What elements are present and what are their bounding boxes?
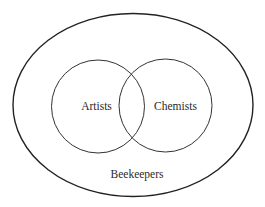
venn-diagram: Artists Chemists Beekeepers [0, 0, 265, 207]
beekeepers-label: Beekeepers [111, 168, 165, 181]
chemists-label: Chemists [154, 100, 197, 112]
artists-label: Artists [81, 100, 112, 112]
